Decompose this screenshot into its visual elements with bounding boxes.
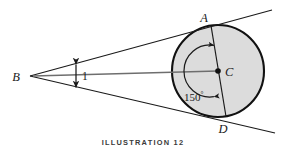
label-point-d: D <box>217 122 227 136</box>
label-point-c: C <box>225 65 234 79</box>
figure-caption: ILLUSTRATION 12 <box>0 138 286 147</box>
label-distance-1: 1 <box>82 70 88 82</box>
angle-value-text: 150 <box>184 91 201 103</box>
geometry-diagram: A B C D 1 150° <box>0 0 286 152</box>
caption-word: ILLUSTRATION <box>102 138 171 147</box>
caption-number: 12 <box>174 138 185 147</box>
illustration-figure: A B C D 1 150° ILLUSTRATION 12 <box>0 0 286 152</box>
label-point-b: B <box>12 70 20 84</box>
label-point-a: A <box>199 11 208 25</box>
center-point-marker <box>215 68 221 74</box>
degree-symbol: ° <box>201 90 204 99</box>
